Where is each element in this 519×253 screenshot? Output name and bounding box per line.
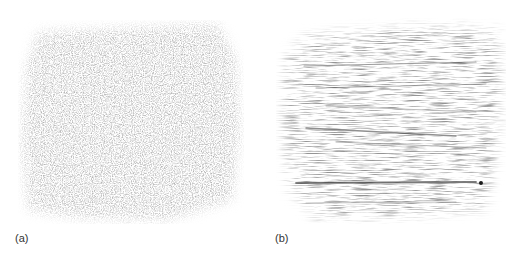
texture-panel-a	[18, 20, 244, 224]
texture-image-a	[18, 20, 244, 224]
texture-image-b	[276, 18, 506, 224]
texture-panel-b	[276, 18, 506, 224]
panel-label-a: (a)	[15, 232, 28, 244]
panel-label-b: (b)	[275, 232, 288, 244]
